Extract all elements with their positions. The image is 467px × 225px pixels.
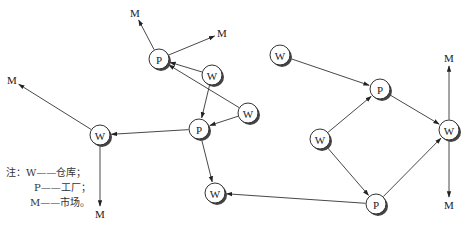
warehouse-node: W <box>205 183 227 205</box>
legend-meaning: 仓库； <box>56 165 86 180</box>
edge-w1-to-p2 <box>202 85 210 118</box>
legend-row-factory: P —— 工厂； <box>6 180 91 195</box>
legend-row-market: M —— 市场。 <box>6 195 91 210</box>
node-label: W <box>243 108 254 120</box>
warehouse-node: W <box>238 103 260 125</box>
edge-p1-to-m2 <box>169 36 215 55</box>
warehouse-node: W <box>202 65 224 87</box>
edge-p4-to-w7 <box>383 138 441 196</box>
edge-w2-to-p2 <box>210 116 238 125</box>
legend-meaning: 市场。 <box>60 195 90 210</box>
legend-row-warehouse: 注： W —— 仓库； <box>6 165 91 180</box>
node-label: P <box>377 84 383 96</box>
warehouse-node: W <box>270 45 292 67</box>
edge-w6-to-p4 <box>327 147 369 195</box>
market-label: M <box>444 52 454 64</box>
legend-dash: —— <box>40 195 60 210</box>
edge-p2-to-w3 <box>111 130 188 135</box>
legend-dash: —— <box>41 180 61 195</box>
edge-w5-to-p3 <box>290 58 369 85</box>
market-label: M <box>95 208 105 220</box>
legend: 注： W —— 仓库； P —— 工厂； M —— 市场。 <box>6 165 91 210</box>
edge-p2-to-w4 <box>202 139 213 182</box>
node-label: P <box>156 54 162 66</box>
legend-key: M <box>30 195 40 210</box>
factory-node: P <box>149 49 171 71</box>
node-label: P <box>196 124 202 136</box>
node-label: W <box>210 188 221 200</box>
factory-node: P <box>370 79 392 101</box>
factory-node: P <box>189 119 211 141</box>
warehouse-node: W <box>90 125 112 147</box>
factory-node: P <box>366 194 388 216</box>
warehouse-node: W <box>439 120 461 142</box>
edge-w3-to-m3 <box>19 84 91 129</box>
market-label: M <box>217 27 227 39</box>
node-label: W <box>444 125 455 137</box>
node-label: W <box>275 50 286 62</box>
legend-meaning: 工厂； <box>61 180 91 195</box>
market-label: M <box>444 199 454 211</box>
legend-key: W <box>26 165 36 180</box>
edge-w1-to-p1 <box>170 62 202 72</box>
edge-p3-to-w7 <box>389 94 439 124</box>
node-label: W <box>315 134 326 146</box>
market-label: M <box>130 7 140 19</box>
legend-key: P <box>34 180 41 195</box>
edge-w6-to-p3 <box>328 96 371 132</box>
market-label: M <box>7 74 17 86</box>
node-label: P <box>373 199 379 211</box>
legend-note-prefix: 注： <box>6 165 26 180</box>
legend-dash: —— <box>36 165 56 180</box>
edge-p1-to-m1 <box>139 20 154 50</box>
edge-p4-to-w4 <box>226 194 365 204</box>
node-label: W <box>207 70 218 82</box>
node-label: W <box>95 130 106 142</box>
